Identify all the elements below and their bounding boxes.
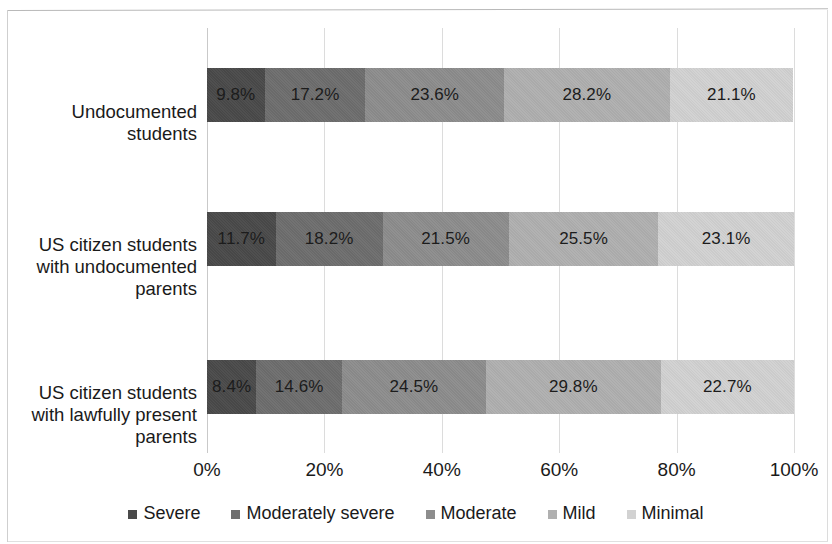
bar-row: 9.8%17.2%23.6%28.2%21.1% [207,68,794,122]
bar-segment: 25.5% [509,212,659,266]
bar-segment: 21.5% [383,212,509,266]
page-border-bottom [8,541,828,542]
legend-label: Mild [563,503,596,524]
bar-segment-value-label: 23.6% [410,85,459,105]
category-label-line: with undocumented [5,256,197,278]
plot-area: 9.8%17.2%23.6%28.2%21.1%11.7%18.2%21.5%2… [207,28,794,453]
x-tick-label: 100% [770,459,819,481]
bar-segment-value-label: 28.2% [562,85,611,105]
bar-segment-value-label: 9.8% [216,85,255,105]
bar-segment: 23.6% [365,68,504,122]
bar-segment-value-label: 14.6% [275,377,324,397]
bar-segment: 11.7% [207,212,276,266]
legend-label: Minimal [642,503,704,524]
legend-swatch-icon [548,510,557,519]
legend-item[interactable]: Severe [128,503,200,524]
legend-swatch-icon [627,510,636,519]
bar-segment-value-label: 21.1% [707,85,756,105]
bar-segment-value-label: 11.7% [218,229,265,249]
category-label-line: students [5,123,197,145]
legend-item[interactable]: Minimal [627,503,704,524]
chart-legend: SevereModerately severeModerateMildMinim… [0,503,832,524]
page-border-top [8,8,828,11]
category-label-line: Undocumented [5,101,197,123]
legend-label: Moderate [441,503,517,524]
category-label-line: parents [5,278,197,300]
bar-segment: 21.1% [670,68,794,122]
bar-segment-value-label: 8.4% [212,377,251,397]
bar-segment-value-label: 17.2% [291,85,340,105]
bar-segment-value-label: 22.7% [703,377,752,397]
bar-segment: 18.2% [276,212,383,266]
x-axis-tick-labels: 0%20%40%60%80%100% [207,459,794,485]
category-label-line: US citizen students [5,382,197,404]
page-border-right [827,10,828,542]
bar-segment: 14.6% [256,360,342,414]
legend-swatch-icon [231,510,240,519]
legend-swatch-icon [426,510,435,519]
bar-segment-value-label: 18.2% [305,229,354,249]
bar-segment: 28.2% [504,68,670,122]
x-tick-label: 40% [423,459,461,481]
bar-segment: 23.1% [658,212,794,266]
category-label: US citizen studentswith lawfully present… [5,382,197,448]
gridline-100% [794,28,795,453]
category-label-line: parents [5,426,197,448]
x-tick-label: 60% [540,459,578,481]
legend-swatch-icon [128,510,137,519]
legend-label: Moderately severe [246,503,394,524]
legend-item[interactable]: Mild [548,503,596,524]
x-tick-label: 20% [305,459,343,481]
bar-segment: 29.8% [486,360,661,414]
bar-segment-value-label: 23.1% [702,229,751,249]
bar-segment-value-label: 29.8% [549,377,598,397]
x-tick-label: 80% [658,459,696,481]
category-label: Undocumentedstudents [5,101,197,145]
bar-segment: 22.7% [661,360,794,414]
category-axis-labels: UndocumentedstudentsUS citizen studentsw… [0,28,197,453]
category-label: US citizen studentswith undocumentedpare… [5,234,197,300]
legend-item[interactable]: Moderate [426,503,517,524]
bar-row: 11.7%18.2%21.5%25.5%23.1% [207,212,794,266]
bar-row: 8.4%14.6%24.5%29.8%22.7% [207,360,794,414]
bar-segment: 9.8% [207,68,265,122]
bar-segment: 8.4% [207,360,256,414]
legend-item[interactable]: Moderately severe [231,503,394,524]
legend-label: Severe [143,503,200,524]
category-label-line: US citizen students [5,234,197,256]
stacked-bar-chart: UndocumentedstudentsUS citizen studentsw… [0,0,832,544]
bar-segment-value-label: 24.5% [390,377,439,397]
bar-segment: 24.5% [342,360,486,414]
x-tick-label: 0% [193,459,220,481]
bar-segment-value-label: 21.5% [421,229,470,249]
category-label-line: with lawfully present [5,404,197,426]
bar-segment-value-label: 25.5% [559,229,608,249]
bar-segment: 17.2% [265,68,366,122]
